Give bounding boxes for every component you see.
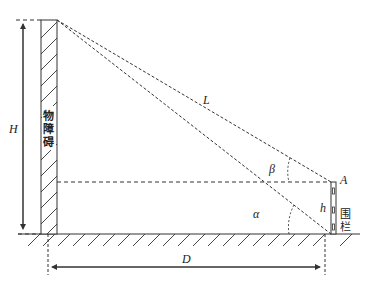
label-alpha: α [253,208,259,220]
label-h: h [320,202,326,214]
sight-line-ground [57,20,331,234]
sight-line-L [57,20,331,182]
label-A: A [340,174,347,186]
label-H: H [9,123,18,135]
diagram: H L β α A h D 物 障 碍 围 栏 [0,0,370,286]
geometry-drawing [0,0,370,286]
beta-arc [288,158,290,182]
obstacle-label: 物 障 碍 [43,110,54,149]
label-D: D [182,253,191,265]
label-beta: β [269,163,275,175]
fence-label: 围 栏 [340,208,351,234]
fence [331,182,336,234]
alpha-arc [288,205,294,234]
label-L: L [203,94,210,106]
ground-hatch [28,234,352,246]
